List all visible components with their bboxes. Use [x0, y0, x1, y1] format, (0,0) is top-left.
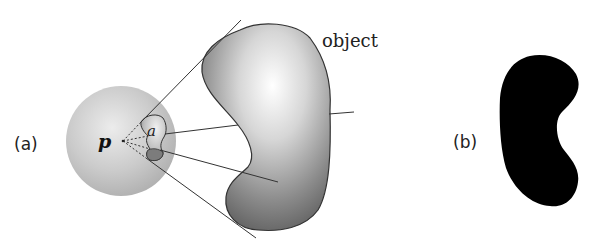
panel-b: (b) — [453, 55, 579, 206]
point-p-label: p — [98, 130, 112, 152]
point-p — [122, 140, 125, 143]
solid-angle-figure: (a) a p object (b) — [0, 0, 612, 247]
panel-b-label: (b) — [453, 132, 477, 152]
object-label: object — [322, 30, 379, 51]
panel-a-label: (a) — [14, 134, 38, 154]
patch-label: a — [147, 122, 156, 140]
panel-a: (a) a p object — [14, 20, 379, 238]
silhouette-shape — [500, 55, 579, 206]
